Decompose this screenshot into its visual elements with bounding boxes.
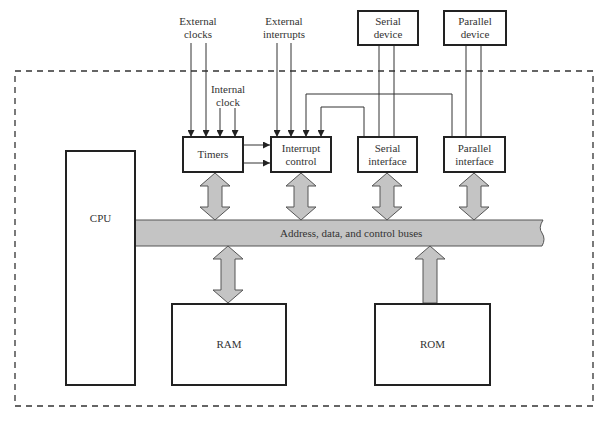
serial-interface-block: Serial interface — [357, 136, 418, 173]
parallel-bus-arrow — [459, 173, 489, 220]
internal-clock-label: Internal clock — [200, 83, 256, 109]
ram-block: RAM — [171, 303, 287, 386]
rom-block: ROM — [374, 303, 491, 386]
serial-bus-arrow — [372, 173, 402, 220]
parallel-device-block: Parallel device — [443, 10, 507, 46]
ram-bus-arrow — [213, 246, 243, 303]
interrupt-bus-arrow — [286, 173, 316, 220]
parallel-interface-block: Parallel interface — [443, 136, 506, 173]
timers-bus-arrow — [200, 173, 230, 220]
timers-block: Timers — [182, 136, 244, 173]
external-clocks-label: External clocks — [168, 15, 228, 41]
serial-device-block: Serial device — [357, 10, 419, 46]
cpu-block: CPU — [65, 150, 136, 386]
rom-bus-arrow — [415, 246, 445, 303]
external-interrupts-label: External interrupts — [252, 15, 316, 41]
bus-label: Address, data, and control buses — [280, 227, 422, 239]
interrupt-control-block: Interrupt control — [270, 136, 332, 173]
